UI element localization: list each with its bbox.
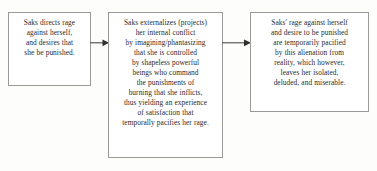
flowchart-node-rage-directed-inward: Saks directs rage against herself, and d… bbox=[8, 12, 91, 86]
flowchart-node-text: Saks' rage against herself and desire to… bbox=[251, 13, 368, 91]
arrow-node2-to-node3 bbox=[222, 38, 251, 47]
flowchart-diagram: Saks directs rage against herself, and d… bbox=[0, 0, 377, 171]
arrow-node1-to-node2 bbox=[90, 38, 109, 47]
flowchart-node-text: Saks externalizes (projects) her interna… bbox=[109, 13, 222, 132]
flowchart-node-text: Saks directs rage against herself, and d… bbox=[9, 13, 90, 61]
flowchart-node-externalization-projection: Saks externalizes (projects) her interna… bbox=[108, 12, 223, 158]
flowchart-node-temporary-pacification-outcome: Saks' rage against herself and desire to… bbox=[250, 12, 369, 112]
